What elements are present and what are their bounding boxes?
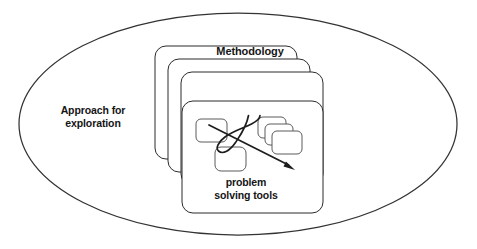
node-bottom	[215, 147, 246, 171]
methodology-label: Methodology	[190, 45, 310, 58]
problem-solving-tools-label: problem solving tools	[192, 176, 300, 202]
approach-for-exploration-label: Approach for exploration	[33, 104, 153, 130]
diagram-canvas: Methodology Approach for exploration pro…	[0, 0, 477, 249]
node-stack-front	[272, 131, 302, 154]
